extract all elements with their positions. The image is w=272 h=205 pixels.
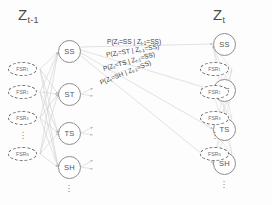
right-state-node-ss[interactable]: SS bbox=[213, 33, 236, 56]
left-observation-node[interactable]: FSR2 bbox=[8, 85, 37, 99]
right-observation-node[interactable]: FSR1 bbox=[200, 62, 229, 76]
left-state-node-sh[interactable]: SH bbox=[58, 156, 81, 179]
left-state-node-ts[interactable]: TS bbox=[58, 122, 81, 145]
slice-title-previous: Zt-1 bbox=[18, 6, 39, 23]
left-observation-node[interactable]: FSR3 bbox=[8, 111, 37, 125]
slice-title-current: Zt bbox=[213, 6, 225, 23]
right-observation-node[interactable]: FSR3 bbox=[200, 111, 229, 125]
right-state-ellipsis: ··· bbox=[219, 180, 229, 190]
right-observation-node[interactable]: FSR2 bbox=[200, 85, 229, 99]
left-state-node-ss[interactable]: SS bbox=[58, 40, 81, 63]
right-observation-node[interactable]: FSRN bbox=[200, 147, 229, 161]
left-observation-node[interactable]: FSR1 bbox=[8, 62, 37, 76]
right-observation-ellipsis: ··· bbox=[210, 131, 220, 141]
left-observation-node[interactable]: FSRN bbox=[8, 147, 37, 161]
left-state-ellipsis: ··· bbox=[64, 184, 74, 194]
left-state-node-st[interactable]: ST bbox=[58, 83, 81, 106]
left-observation-ellipsis: ··· bbox=[18, 131, 28, 141]
edge-layer bbox=[0, 0, 272, 205]
dbn-transition-diagram: Zt-1 Zt FSR1 FSR2 FSR3 FSRN ··· SS ST TS… bbox=[0, 0, 272, 205]
